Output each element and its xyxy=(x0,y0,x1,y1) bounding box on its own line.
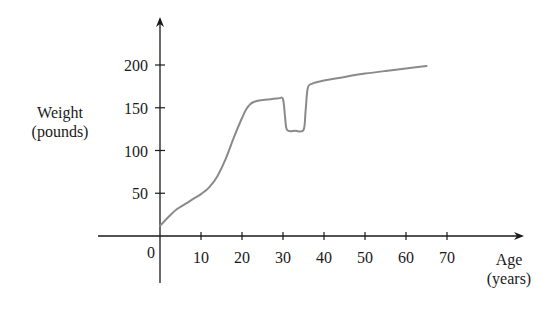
x-axis-title-line2: (years) xyxy=(487,270,531,288)
y-axis-title-line2: (pounds) xyxy=(32,123,89,141)
x-tick-label: 10 xyxy=(193,249,209,266)
x-tick-label: 70 xyxy=(439,249,455,266)
x-tick-label: 30 xyxy=(275,249,291,266)
x-axis-title-line1: Age xyxy=(496,251,523,269)
weight-curve xyxy=(160,66,427,226)
x-axis-ticks: 10203040506070 xyxy=(193,232,455,266)
origin-label: 0 xyxy=(147,244,155,261)
chart: 10203040506070 50100150200 0 Weight (pou… xyxy=(0,0,546,310)
y-axis-title-line1: Weight xyxy=(37,104,83,122)
y-tick-label: 50 xyxy=(132,185,148,202)
y-tick-label: 200 xyxy=(124,57,148,74)
y-tick-label: 100 xyxy=(124,143,148,160)
y-tick-label: 150 xyxy=(124,100,148,117)
x-tick-label: 60 xyxy=(398,249,414,266)
y-axis-ticks: 50100150200 xyxy=(124,57,165,202)
x-tick-label: 40 xyxy=(316,249,332,266)
x-tick-label: 20 xyxy=(234,249,250,266)
x-tick-label: 50 xyxy=(357,249,373,266)
